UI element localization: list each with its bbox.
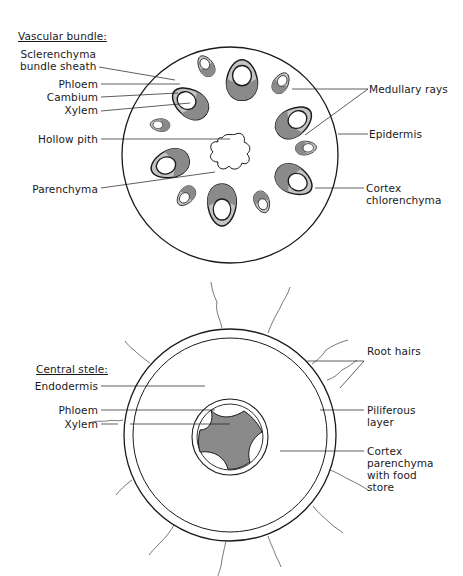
label-root-hairs: Root hairs (367, 345, 421, 357)
label-cambium: Cambium (20, 91, 98, 103)
label-xylem: Xylem (20, 104, 98, 116)
label-cortex-line1: Cortex (366, 182, 441, 194)
label-phloem: Phloem (20, 78, 98, 90)
label-cortex-chlorenchyma: Cortex chlorenchyma (366, 182, 441, 206)
label-piliferous-line2: layer (367, 416, 416, 428)
label-piliferous-layer: Piliferous layer (367, 404, 416, 428)
label-medullary-rays: Medullary rays (369, 83, 448, 95)
label-sclerenchyma: Sclerenchyma bundle sheath (20, 48, 96, 72)
label-xylem-root: Xylem (10, 418, 98, 430)
stem-cross-section (99, 47, 368, 263)
label-endodermis: Endodermis (10, 380, 98, 392)
central-stele-heading: Central stele: (36, 363, 108, 375)
label-parenchyma: Parenchyma (10, 183, 98, 195)
label-cortex-parenchyma-line4: store (367, 481, 434, 493)
label-cortex-parenchyma-line2: parenchyma (367, 457, 434, 469)
label-cortex-parenchyma: Cortex parenchyma with food store (367, 445, 434, 493)
vascular-bundle-heading: Vascular bundle: (18, 30, 107, 42)
label-phloem-root: Phloem (10, 404, 98, 416)
label-epidermis: Epidermis (369, 128, 422, 140)
label-cortex-parenchyma-line1: Cortex (367, 445, 434, 457)
label-cortex-line2: chlorenchyma (366, 194, 441, 206)
label-cortex-parenchyma-line3: with food (367, 469, 434, 481)
label-sclerenchyma-line2: bundle sheath (20, 60, 96, 72)
label-sclerenchyma-line1: Sclerenchyma (20, 48, 96, 60)
label-piliferous-line1: Piliferous (367, 404, 416, 416)
root-cross-section (90, 282, 368, 576)
label-hollow-pith: Hollow pith (10, 133, 98, 145)
